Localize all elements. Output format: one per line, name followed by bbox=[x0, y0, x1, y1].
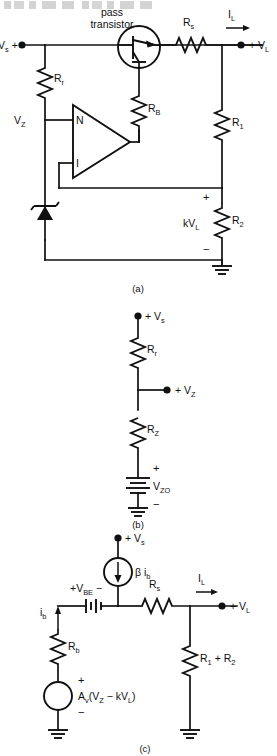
figure-c-diagram: + Vs β ib +VBE − Rs IL bbox=[0, 530, 277, 756]
label-opamp-inverting: I bbox=[76, 157, 79, 169]
label-r1: R1 bbox=[232, 116, 244, 131]
resistor-rb-c bbox=[51, 634, 65, 664]
resistor-rb bbox=[132, 96, 146, 126]
resistor-r1 bbox=[215, 110, 229, 140]
label-rb: RB bbox=[148, 102, 161, 117]
label-rb-c: Rb bbox=[68, 640, 80, 655]
label-vs-b: + Vs bbox=[145, 310, 165, 325]
figure-c-caption: (c) bbox=[139, 743, 150, 754]
node-vl-c bbox=[218, 602, 225, 609]
zener-triangle bbox=[37, 206, 53, 220]
label-vz-b: + VZ bbox=[175, 384, 196, 399]
figure-a-diagram: Vs + pass transistor Rs IL bbox=[0, 0, 277, 300]
label-il-c: IL bbox=[198, 572, 205, 587]
resistor-r1r2-c bbox=[183, 646, 197, 676]
label-vl-c: + VL bbox=[230, 600, 250, 615]
resistor-rs-c bbox=[142, 599, 172, 613]
figure-b-diagram: + Vs Rr + VZ RZ + VZO − bbox=[0, 300, 277, 530]
label-rz-b: RZ bbox=[147, 423, 160, 438]
label-opamp-noninverting: N bbox=[76, 114, 84, 126]
label-vl: + VL bbox=[249, 39, 269, 54]
label-kvl: kVL bbox=[183, 217, 199, 232]
label-src-plus: + bbox=[78, 674, 84, 686]
resistor-rr bbox=[38, 68, 52, 98]
label-vzo: VZO bbox=[153, 480, 171, 495]
resistor-rz-b bbox=[131, 418, 145, 448]
label-pass-transistor-line1: pass bbox=[101, 6, 123, 18]
label-src-expression: Av(VZ − kVL) bbox=[78, 690, 136, 705]
resistor-r2 bbox=[215, 208, 229, 238]
label-r2: R2 bbox=[232, 214, 244, 229]
label-vzo-minus: − bbox=[153, 498, 159, 510]
figure-a-caption: (a) bbox=[132, 283, 144, 294]
label-r2-plus: + bbox=[203, 191, 209, 203]
figure-sheet: Vs + pass transistor Rs IL bbox=[0, 0, 277, 756]
label-vbe: +VBE − bbox=[70, 582, 102, 597]
battery-vbe bbox=[86, 599, 101, 613]
node-vz-b bbox=[163, 386, 170, 393]
node-vl bbox=[237, 41, 244, 48]
ground-symbol-a bbox=[212, 260, 232, 274]
ib-arrow-head bbox=[55, 606, 61, 614]
label-ib-c: ib bbox=[40, 606, 46, 621]
label-vzo-plus: + bbox=[153, 462, 159, 474]
label-src-minus: − bbox=[78, 706, 84, 718]
label-rs: Rs bbox=[183, 16, 195, 31]
csrc-arrow-head bbox=[115, 575, 122, 583]
label-il: IL bbox=[228, 8, 235, 23]
label-r2-minus: − bbox=[203, 243, 209, 255]
ground-symbol-c-right bbox=[180, 730, 200, 738]
resistor-rr-b bbox=[131, 338, 145, 368]
ground-symbol-c-left bbox=[48, 730, 68, 738]
label-rs-c: Rs bbox=[149, 578, 161, 593]
il-arrow-head bbox=[243, 25, 250, 31]
figure-b-caption: (b) bbox=[132, 519, 144, 530]
label-vs-c: + Vs bbox=[125, 532, 145, 547]
battery-vzo bbox=[126, 478, 150, 493]
label-vs: Vs + bbox=[0, 39, 18, 54]
il-arrow-head-c bbox=[211, 589, 218, 595]
label-r1-plus-r2: R1 + R2 bbox=[200, 652, 235, 667]
voltage-source-av bbox=[44, 682, 72, 710]
label-pass-transistor-line2: transistor bbox=[90, 18, 134, 30]
label-vz: VZ bbox=[14, 114, 26, 129]
label-rr: Rr bbox=[54, 72, 65, 87]
ground-symbol-b bbox=[128, 508, 148, 516]
label-rr-b: Rr bbox=[147, 343, 158, 358]
